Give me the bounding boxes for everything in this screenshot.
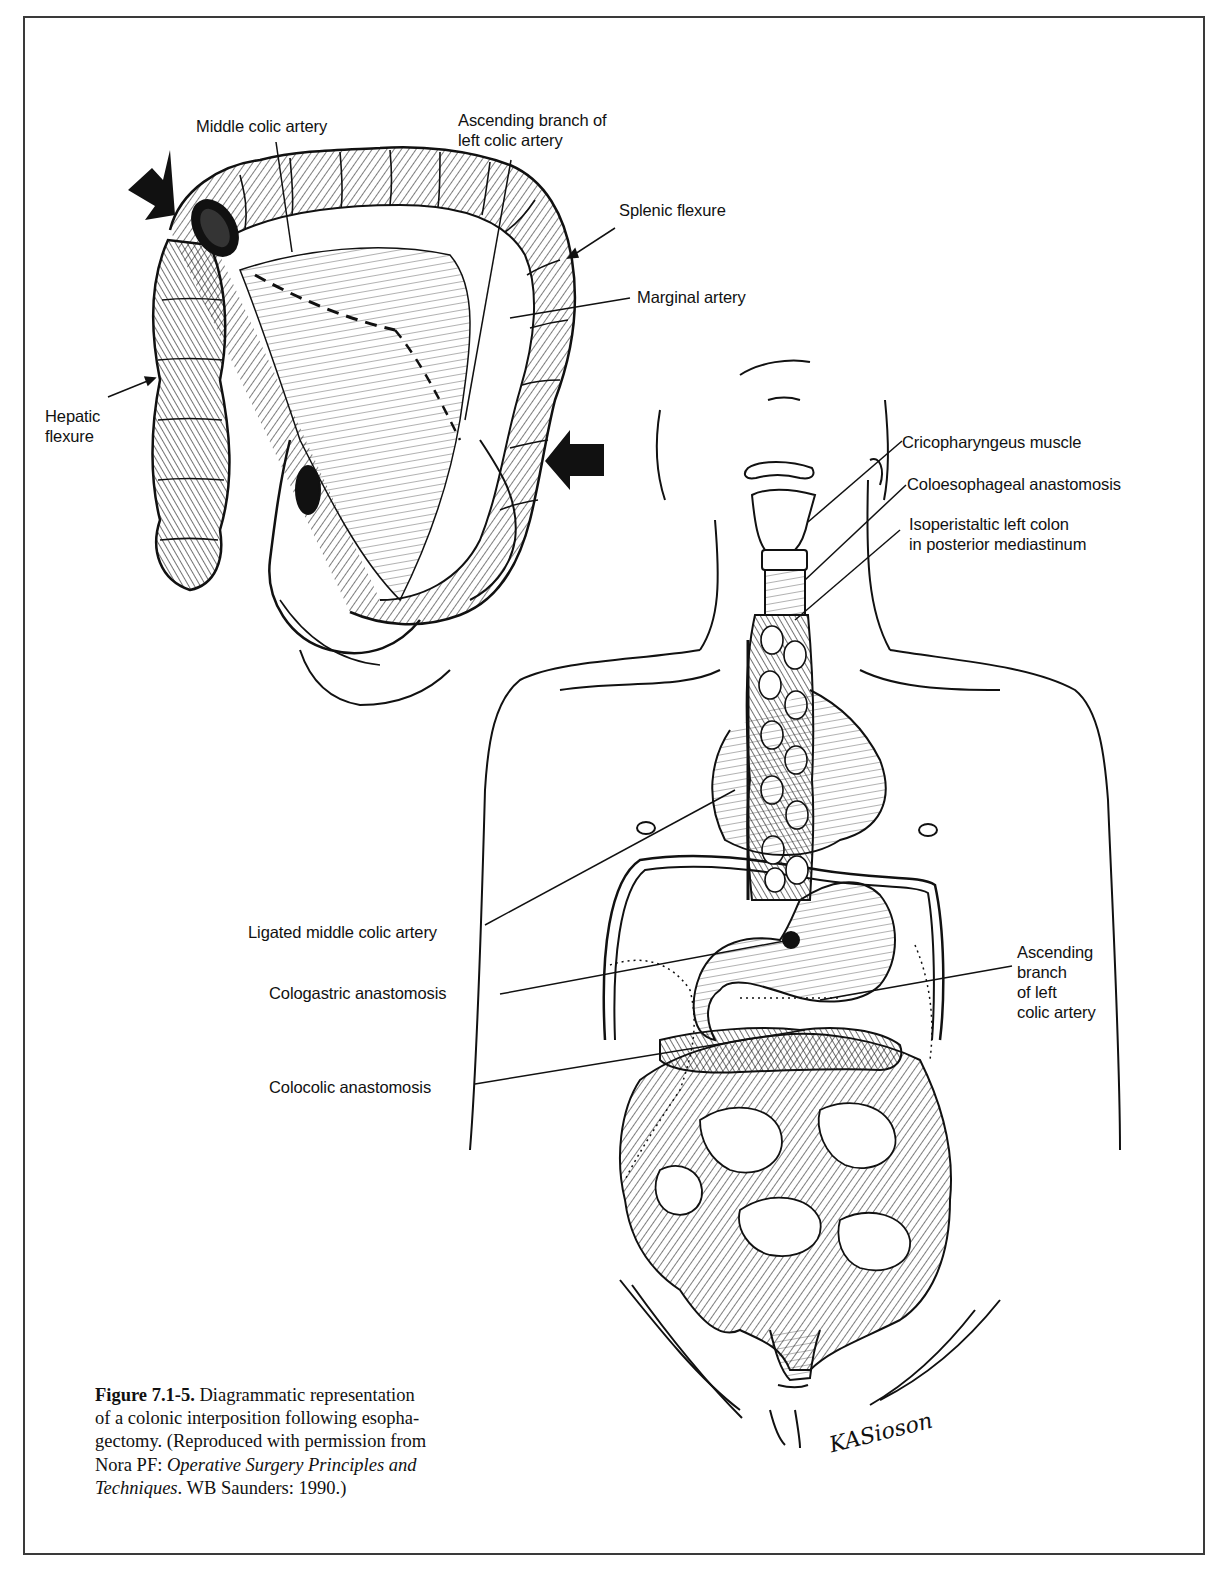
label-coloesophageal-anastomosis: Coloesophageal anastomosis [907, 474, 1121, 494]
caption-book-title-part1: Operative Surgery Principles and [167, 1455, 417, 1475]
anatomy-illustration [0, 0, 1226, 1581]
caption-line-2: of a colonic interposition following eso… [95, 1408, 419, 1428]
label-ascending-branch-left-colic-artery-inset: Ascending branch of left colic artery [458, 110, 607, 150]
colon-specimen-inset [128, 147, 604, 705]
caption-book-title-part2: Techniques [95, 1478, 178, 1498]
bowel-mass [620, 1028, 951, 1380]
label-isoperistaltic-left-colon: Isoperistaltic left colon in posterior m… [909, 514, 1086, 554]
caption-publisher: . WB Saunders: 1990.) [178, 1478, 347, 1498]
label-cologastric-anastomosis: Cologastric anastomosis [269, 983, 446, 1003]
label-marginal-artery: Marginal artery [637, 287, 746, 307]
caption-citation-prefix: Nora PF: [95, 1455, 167, 1475]
larynx [745, 462, 815, 570]
label-middle-colic-artery: Middle colic artery [196, 116, 327, 136]
figure-number: Figure 7.1-5. [95, 1385, 195, 1405]
caption-line-3: gectomy. (Reproduced with permission fro… [95, 1431, 426, 1451]
label-hepatic-flexure: Hepatic flexure [45, 406, 100, 446]
heart [712, 690, 885, 855]
label-splenic-flexure: Splenic flexure [619, 200, 726, 220]
label-ascending-branch-left-colic-artery-torso: Ascending branch of left colic artery [1017, 942, 1096, 1022]
label-ligated-middle-colic-artery: Ligated middle colic artery [248, 922, 437, 942]
label-cricopharyngeus-muscle: Cricopharyngeus muscle [902, 432, 1081, 452]
figure-caption: Figure 7.1-5. Diagrammatic representatio… [95, 1384, 493, 1500]
stomach [694, 882, 895, 1040]
label-colocolic-anastomosis: Colocolic anastomosis [269, 1077, 431, 1097]
caption-line-1: Diagrammatic representation [195, 1385, 415, 1405]
